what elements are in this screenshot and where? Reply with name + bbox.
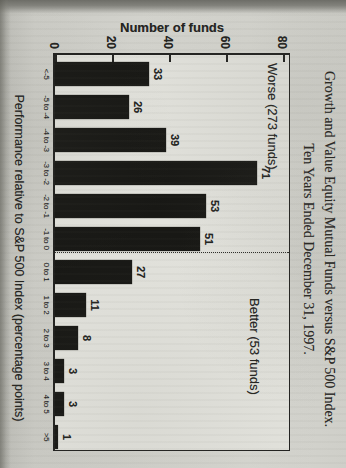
y-axis-tick-mark [55,55,57,62]
rotated-chart-canvas: Growth and Value Equity Mutual Funds ver… [0,0,346,468]
category-label: >5 [42,415,51,459]
bar--2 to -1 [55,194,206,218]
bar-value-label: 8 [81,318,93,358]
annotation-better: Better (53 funds) [247,298,262,395]
chart-title-line-1: Growth and Value Equity Mutual Funds ver… [319,30,340,468]
y-axis-tick-label: 0 [47,15,60,49]
bar-3 to 4 [55,359,64,383]
worse-better-separator-dotted-line [55,252,289,253]
chart-title-line-2: Ten Years Ended December 31, 1997. [298,30,319,468]
bar--4 to -3 [55,128,166,152]
bar-value-label: 27 [135,252,147,292]
y-axis-tick-label: 60 [218,15,231,49]
bar-value-label: 39 [169,120,181,160]
plot-area: Worse (273 funds) Better (53 funds) 3326… [53,53,290,451]
bar-1 to 2 [55,293,86,317]
bar--3 to -2 [55,161,257,185]
y-axis-tick-label: 20 [104,15,117,49]
y-axis-tick-mark [283,55,285,62]
bar-chart: Growth and Value Equity Mutual Funds ver… [0,0,346,468]
y-axis-tick-label: 40 [161,15,174,49]
bar--1 to 0 [55,227,200,251]
y-axis-tick-mark [226,55,228,62]
y-axis-tick-mark [169,55,171,62]
bar--5 to -4 [55,95,129,119]
y-axis-tick-mark [112,55,114,62]
bar-value-label: 51 [203,219,215,259]
y-axis-tick-label: 80 [275,15,288,49]
bar-value-label: 26 [132,87,144,127]
bar-value-label: 33 [152,54,164,94]
bar->5 [55,425,58,449]
bar-value-label: 71 [260,153,272,193]
bar-2 to 3 [55,326,78,350]
bar-value-label: 1 [61,417,73,457]
chart-title: Growth and Value Equity Mutual Funds ver… [298,0,340,468]
x-axis-label: Performance relative to S&P 500 Index (p… [12,58,26,458]
bar-<-5 [55,62,149,86]
bar-0 to 1 [55,260,132,284]
bar-4 to 5 [55,392,64,416]
scanned-book-page: Growth and Value Equity Mutual Funds ver… [0,0,346,468]
